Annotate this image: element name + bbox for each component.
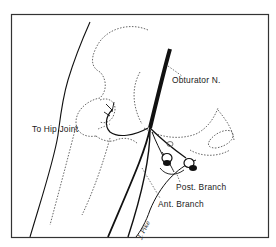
femoral-head-outline [76,98,100,136]
articular-branch [106,110,148,135]
articular-twig-2 [112,102,114,112]
ilium-outline [93,27,148,98]
femur-neck-dotted [96,136,138,144]
femoral-shaft-dotted-1 [50,126,76,225]
right-pelvis-outline [218,110,234,140]
vessel-lumen-2 [189,165,197,171]
ischium-outline [190,150,230,155]
femoral-shaft-dotted-2 [82,138,110,215]
label-to-hip-joint: To Hip Joint [32,125,78,133]
obturator-nerve [150,49,170,128]
hip-joint-leader [98,124,110,129]
label-obturator-nerve: Obturator N. [172,76,220,84]
label-posterior-branch: Post. Branch [176,183,226,191]
label-anterior-branch: Ant. Branch [158,200,204,208]
articular-twig-1 [106,104,112,110]
obturator-foramen-outline [208,130,233,148]
pelvic-brim-dotted [134,72,142,124]
acetabulum-outline [100,99,115,123]
vessel-lumen-1 [163,160,171,166]
anatomical-illustration: Obturator N. To Hip Joint Post. Branch A… [0,0,276,247]
